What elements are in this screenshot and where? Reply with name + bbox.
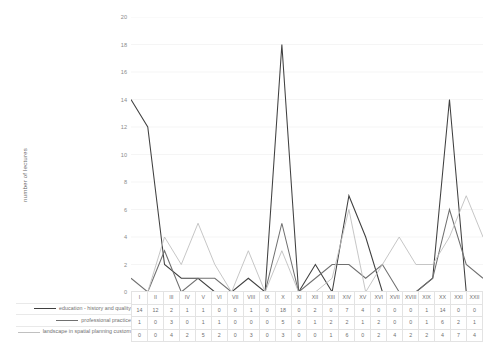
table-column-header: VI [211,292,227,305]
series-lines [131,45,483,293]
y-tick-label: 10 [105,152,127,158]
table-column-header: XII [307,292,323,305]
y-tick-label: 6 [105,207,127,213]
table-column-header: XXII [467,292,483,305]
table-cell: 0 [291,317,307,330]
table-column-header: V [195,292,211,305]
table-column-header: XIII [323,292,339,305]
table-cell: 4 [355,304,371,317]
table-cell: 4 [163,329,179,342]
y-tick-label: 4 [105,234,127,240]
legend-label-series-0: education - history and quality [59,303,131,315]
y-tick-label: 2 [105,262,127,268]
table-cell: 0 [451,304,467,317]
table-cell: 1 [307,317,323,330]
table-row: 1030110005012212001621 [132,317,483,330]
table-column-header: XIV [339,292,355,305]
table-column-header: II [147,292,163,305]
table-cell: 14 [435,304,451,317]
plot-area [131,17,483,292]
table-cell: 1 [419,317,435,330]
table-cell: 5 [195,329,211,342]
legend-swatch-series-1 [56,320,78,321]
table-cell: 0 [371,304,387,317]
table-cell: 2 [307,304,323,317]
table-cell: 2 [339,317,355,330]
table-cell: 0 [307,329,323,342]
table-cell: 2 [371,317,387,330]
table-column-header: XXI [451,292,467,305]
table-cell: 2 [403,329,419,342]
table-cell: 0 [387,317,403,330]
table-column-header: I [132,292,148,305]
table-cell: 0 [403,304,419,317]
table-cell: 7 [451,329,467,342]
table-cell: 0 [259,317,275,330]
table-cell: 0 [403,317,419,330]
table-cell: 0 [355,329,371,342]
table-cell: 7 [339,304,355,317]
table-cell: 0 [227,329,243,342]
table-column-header: VII [227,292,243,305]
chart-legend: education - history and quality professi… [16,291,131,338]
y-tick-label: 20 [105,14,127,20]
gridlines [131,17,483,292]
legend-item: landscape in spatial planning custom [16,326,131,338]
table-column-header: VIII [243,292,259,305]
table-cell: 1 [195,317,211,330]
table-column-header: X [275,292,291,305]
legend-item: professional practice [16,314,131,326]
table-cell: 1 [323,329,339,342]
table-cell: 3 [275,329,291,342]
table-cell: 6 [339,329,355,342]
series-line-0 [131,45,483,293]
table-cell: 0 [291,304,307,317]
plot-svg [131,17,483,292]
y-tick-label: 16 [105,69,127,75]
legend-item: education - history and quality [16,303,131,315]
y-axis-tick-labels: 20181614121086420 [103,17,127,292]
table-column-header: XI [291,292,307,305]
table-column-header: XVIII [403,292,419,305]
data-table: IIIIIIIVVVIVIIVIIIIXXXIXIIXIIIXIVXVXVIXV… [131,291,483,342]
line-chart: number of lectures 20181614121086420 edu… [0,0,493,353]
table-cell: 0 [323,304,339,317]
table-column-header: IX [259,292,275,305]
table-column-header: XVII [387,292,403,305]
table-cell: 0 [259,304,275,317]
table-cell: 0 [243,317,259,330]
table-header-row: IIIIIIIVVVIVIIVIIIIXXXIXIIXIIIXIVXVXVIXV… [132,292,483,305]
table-cell: 2 [179,329,195,342]
table-cell: 2 [211,329,227,342]
table-cell: 2 [419,329,435,342]
table-cell: 1 [211,317,227,330]
table-body: 1412211001018020740001140010301100050122… [132,304,483,342]
table-cell: 2 [163,304,179,317]
y-tick-label: 14 [105,97,127,103]
table-cell: 0 [227,304,243,317]
table-cell: 0 [132,329,148,342]
table-cell: 6 [435,317,451,330]
table-cell: 1 [195,304,211,317]
legend-label-series-1: professional practice [81,315,131,327]
table-row: 0042520303001602422474 [132,329,483,342]
table-cell: 0 [387,304,403,317]
table-cell: 1 [355,317,371,330]
y-tick-label: 8 [105,179,127,185]
table-cell: 3 [163,317,179,330]
table-cell: 0 [259,329,275,342]
table-cell: 2 [323,317,339,330]
table-column-header: XX [435,292,451,305]
table-cell: 1 [243,304,259,317]
table-cell: 4 [467,329,483,342]
y-axis-title: number of lectures [18,120,32,230]
table-cell: 14 [132,304,148,317]
table-cell: 0 [179,317,195,330]
table-cell: 18 [275,304,291,317]
table-cell: 0 [147,329,163,342]
table-column-header: XIX [419,292,435,305]
table-row: 14122110010180207400011400 [132,304,483,317]
table-cell: 0 [291,329,307,342]
table-column-header: IV [179,292,195,305]
table-cell: 1 [467,317,483,330]
